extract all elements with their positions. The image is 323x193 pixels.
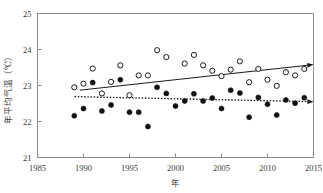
open-data-point — [90, 66, 95, 71]
solid-data-point — [173, 104, 178, 109]
open-data-point — [210, 68, 215, 73]
y-tick-label: 21 — [23, 153, 32, 163]
x-tick-label: 2005 — [213, 163, 230, 173]
solid-data-point — [182, 98, 187, 103]
x-axis-ticks — [38, 154, 314, 158]
open-data-point — [182, 61, 187, 66]
solid-data-point — [201, 98, 206, 103]
chart-canvas: 2122232425 1985199019952000200520102015 … — [0, 0, 323, 193]
y-tick-label: 22 — [23, 117, 32, 127]
x-tick-label: 1995 — [121, 163, 138, 173]
open-data-point — [118, 63, 123, 68]
solid-data-point — [293, 101, 298, 106]
x-axis-title: 年 — [171, 178, 180, 188]
open-data-point — [81, 81, 86, 86]
open-data-point — [274, 83, 279, 88]
y-axis-labels: 2122232425 — [23, 9, 32, 163]
x-axis-labels: 1985199019952000200520102015 — [29, 163, 322, 173]
open-data-point — [136, 73, 141, 78]
open-data-point — [155, 48, 160, 53]
solid-data-point — [136, 110, 141, 115]
y-axis-title: 年平均气温（℃） — [3, 52, 13, 125]
solid-data-point — [237, 91, 242, 96]
open-data-point — [283, 70, 288, 75]
solid-data-point — [228, 88, 233, 93]
y-axis-ticks — [38, 14, 42, 158]
solid-data-point — [109, 102, 114, 107]
y-tick-label: 25 — [23, 9, 32, 19]
open-data-point — [164, 54, 169, 59]
open-data-point — [265, 77, 270, 82]
solid-data-point — [99, 109, 104, 114]
solid-data-point — [145, 124, 150, 129]
solid-data-point — [274, 113, 279, 118]
solid-data-point — [219, 106, 224, 111]
solid-data-point — [191, 91, 196, 96]
open-data-point — [201, 63, 206, 68]
solid-data-point — [210, 96, 215, 101]
solid-data-point — [283, 97, 288, 102]
open-data-point — [219, 74, 224, 79]
open-data-point — [99, 91, 104, 96]
x-tick-label: 2010 — [259, 163, 276, 173]
plot-border — [38, 14, 314, 158]
annual-mean-temperature-chart: 2122232425 1985199019952000200520102015 … — [0, 0, 323, 193]
trend-arrow-solid-circles — [307, 99, 313, 104]
open-data-point — [72, 85, 77, 90]
x-tick-label: 2015 — [305, 163, 322, 173]
open-data-point — [247, 80, 252, 85]
trend-arrow-open-circles — [307, 63, 313, 68]
data-points — [72, 48, 307, 129]
solid-data-point — [81, 106, 86, 111]
solid-data-point — [247, 115, 252, 120]
plot-frame — [38, 14, 314, 158]
open-data-point — [109, 79, 114, 84]
solid-data-point — [90, 80, 95, 85]
open-data-point — [237, 59, 242, 64]
open-data-point — [256, 66, 261, 71]
open-data-point — [228, 67, 233, 72]
solid-data-point — [72, 113, 77, 118]
solid-data-point — [302, 95, 307, 100]
x-tick-label: 2000 — [167, 163, 184, 173]
solid-data-point — [164, 91, 169, 96]
solid-data-point — [256, 95, 261, 100]
open-data-point — [191, 52, 196, 57]
x-tick-label: 1990 — [75, 163, 92, 173]
trend-line-solid-circles — [75, 97, 309, 102]
open-data-point — [127, 93, 132, 98]
y-tick-label: 23 — [23, 81, 32, 91]
x-tick-label: 1985 — [29, 163, 46, 173]
open-data-point — [293, 73, 298, 78]
open-data-point — [145, 73, 150, 78]
solid-data-point — [155, 85, 160, 90]
solid-data-point — [127, 110, 132, 115]
solid-data-point — [118, 77, 123, 82]
y-tick-label: 24 — [23, 45, 32, 55]
open-data-point — [302, 66, 307, 71]
solid-data-point — [265, 102, 270, 107]
